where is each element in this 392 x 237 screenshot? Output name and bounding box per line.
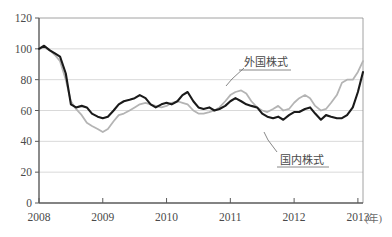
x-axis-unit-label: (年) bbox=[365, 212, 382, 225]
x-tick-label-2008: 2008 bbox=[28, 211, 51, 223]
x-tick-label-2010: 2010 bbox=[155, 211, 178, 223]
y-tick-label-100: 100 bbox=[15, 43, 33, 55]
y-axis: 020406080100120 bbox=[15, 12, 39, 209]
series-annotation-domestic-stocks: 国内株式 bbox=[280, 153, 324, 167]
line-chart: 020406080100120 200820092010201120122013… bbox=[0, 0, 392, 237]
y-tick-label-20: 20 bbox=[21, 166, 33, 178]
series-annotation-foreign-stocks: 外国株式 bbox=[244, 55, 288, 69]
x-tick-label-2009: 2009 bbox=[91, 211, 114, 223]
y-tick-label-80: 80 bbox=[21, 74, 33, 86]
x-tick-label-2011: 2011 bbox=[219, 211, 242, 223]
y-tick-label-0: 0 bbox=[26, 197, 32, 209]
y-tick-label-120: 120 bbox=[15, 12, 33, 24]
y-tick-label-40: 40 bbox=[21, 135, 33, 147]
y-tick-label-60: 60 bbox=[21, 105, 33, 117]
x-tick-label-2012: 2012 bbox=[283, 211, 306, 223]
chart-container: 020406080100120 200820092010201120122013… bbox=[0, 0, 392, 237]
